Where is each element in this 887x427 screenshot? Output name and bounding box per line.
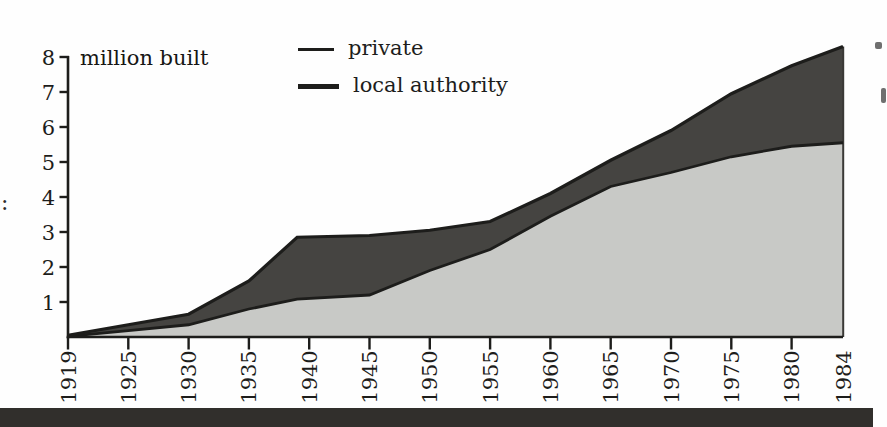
legend-item-local-authority: local authority bbox=[298, 75, 508, 112]
legend-label-local-authority: local authority bbox=[353, 73, 508, 97]
private-line-swatch-icon bbox=[298, 48, 334, 51]
left-margin-colon-artifact: : bbox=[1, 190, 8, 215]
legend: private local authority bbox=[298, 38, 508, 112]
x-tick-label: 1925 bbox=[117, 350, 141, 403]
x-tick-label: 1965 bbox=[599, 350, 623, 403]
scan-artifact bbox=[881, 88, 886, 103]
book-chart-page: 1234567819191925193019351940194519501955… bbox=[0, 0, 887, 427]
y-tick-label: 5 bbox=[42, 151, 55, 175]
x-tick-label: 1950 bbox=[418, 350, 442, 403]
x-tick-label: 1955 bbox=[479, 350, 503, 403]
y-tick-label: 1 bbox=[42, 291, 55, 315]
x-tick-label: 1980 bbox=[780, 350, 804, 403]
y-tick-label: 2 bbox=[42, 256, 55, 280]
x-tick-label: 1970 bbox=[660, 350, 684, 403]
chart-title: million built bbox=[80, 46, 208, 70]
scan-artifact bbox=[875, 42, 882, 49]
x-tick-label: 1935 bbox=[237, 350, 261, 403]
x-tick-label: 1975 bbox=[720, 350, 744, 403]
local-authority-line-swatch-icon bbox=[298, 84, 339, 89]
x-tick-label: 1930 bbox=[177, 350, 201, 403]
y-tick-label: 7 bbox=[42, 81, 55, 105]
x-tick-label: 1984 bbox=[832, 350, 856, 403]
legend-item-private: private bbox=[298, 38, 508, 75]
legend-label-private: private bbox=[348, 36, 423, 60]
y-tick-label: 6 bbox=[42, 116, 55, 140]
x-tick-label: 1945 bbox=[358, 350, 382, 403]
x-tick-label: 1960 bbox=[539, 350, 563, 403]
bottom-print-bar bbox=[0, 408, 873, 427]
y-tick-label: 8 bbox=[42, 46, 55, 70]
x-tick-label: 1940 bbox=[298, 350, 322, 403]
y-tick-label: 3 bbox=[42, 221, 55, 245]
x-tick-label: 1919 bbox=[57, 350, 81, 403]
y-tick-label: 4 bbox=[42, 186, 55, 210]
